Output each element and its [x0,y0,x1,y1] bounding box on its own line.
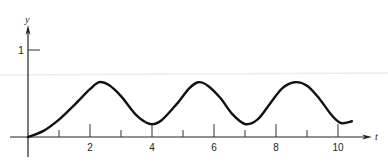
x-ticks [59,124,338,137]
x-axis-label: t [375,131,378,142]
line-chart: y 1 t 246810 [0,0,388,168]
y-ticks: 1 [18,45,40,56]
scan-artifact-line [0,73,388,75]
x-tick-label: 2 [87,142,93,153]
x-tick-label: 4 [149,142,155,153]
x-tick-labels: 246810 [87,142,344,153]
x-tick-label: 8 [273,142,279,153]
x-tick-label: 10 [332,142,344,153]
y-tick-label: 1 [18,45,24,56]
x-tick-label: 6 [211,142,217,153]
y-axis-label: y [24,14,30,25]
data-line-series [28,82,352,137]
